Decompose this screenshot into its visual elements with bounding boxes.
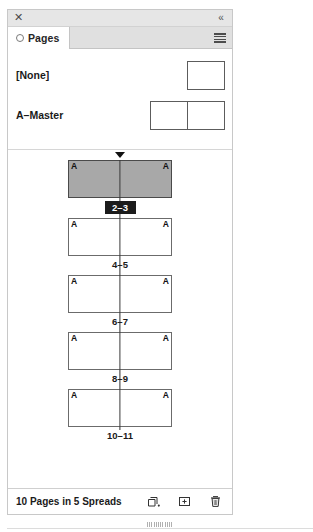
- masters-section: [None] A–Master: [8, 49, 232, 150]
- panel-titlebar: ✕ «: [8, 10, 232, 27]
- master-prefix-left: A: [71, 334, 77, 343]
- create-new-page-icon[interactable]: [177, 494, 191, 509]
- ring-icon: [16, 34, 24, 42]
- master-item-label: A–Master: [16, 109, 63, 121]
- spine-line: [119, 389, 120, 427]
- spine-line: [119, 332, 120, 370]
- panel-bottom-divider: [7, 528, 240, 529]
- master-prefix-left: A: [71, 277, 77, 286]
- spine-line: [119, 160, 120, 198]
- spine-line: [119, 218, 120, 256]
- tab-pages[interactable]: Pages: [8, 27, 70, 49]
- master-prefix-left: A: [71, 162, 77, 171]
- spread-label: 8–9: [8, 373, 232, 385]
- panel-tabstrip: Pages: [8, 27, 232, 49]
- panel-menu-icon[interactable]: [214, 33, 226, 43]
- panel-statusbar: 10 Pages in 5 Spreads: [8, 488, 232, 514]
- collapse-double-chevron-icon[interactable]: «: [214, 12, 227, 24]
- spine-line: [119, 275, 120, 313]
- master-prefix-right: A: [163, 391, 169, 400]
- statusbar-icon-group: [146, 494, 222, 509]
- pages-list[interactable]: A A 2–3 A A 4–5 A A 6–7: [8, 150, 232, 488]
- tab-pages-label: Pages: [28, 32, 59, 44]
- spread-label: 4–5: [8, 259, 232, 271]
- master-prefix-right: A: [163, 162, 169, 171]
- master-thumbnail[interactable]: [187, 61, 225, 90]
- master-item-none[interactable]: [None]: [8, 55, 232, 95]
- master-item-a-master[interactable]: A–Master: [8, 95, 232, 135]
- spread-label: 10–11: [8, 430, 232, 442]
- delete-selected-pages-icon[interactable]: [208, 494, 222, 509]
- master-page-thumb: [187, 61, 225, 90]
- master-prefix-right: A: [163, 220, 169, 229]
- spread-label: 6–7: [8, 316, 232, 328]
- spread-thumbnail[interactable]: A A: [68, 275, 172, 313]
- spread-thumbnail[interactable]: A A: [68, 218, 172, 256]
- master-thumbnail[interactable]: [150, 101, 225, 130]
- spread-thumbnail[interactable]: A A: [68, 332, 172, 370]
- spread-item[interactable]: A A 8–9: [8, 332, 232, 385]
- panel-resize-grip[interactable]: [147, 522, 173, 527]
- spread-item[interactable]: A A 4–5: [8, 218, 232, 271]
- master-prefix-right: A: [163, 277, 169, 286]
- spread-thumbnail[interactable]: A A: [68, 160, 172, 198]
- pages-panel: ✕ « Pages [None] A–Master: [7, 9, 233, 515]
- master-prefix-left: A: [71, 391, 77, 400]
- master-page-thumb: [150, 101, 188, 130]
- master-prefix-left: A: [71, 220, 77, 229]
- master-item-label: [None]: [16, 69, 49, 81]
- edit-page-size-icon[interactable]: [146, 494, 160, 509]
- close-icon[interactable]: ✕: [13, 12, 24, 23]
- spread-item[interactable]: A A 2–3: [8, 160, 232, 214]
- spread-label: 2–3: [105, 201, 136, 214]
- master-page-thumb: [187, 101, 225, 130]
- master-prefix-right: A: [163, 334, 169, 343]
- spread-thumbnail[interactable]: A A: [68, 389, 172, 427]
- spread-item[interactable]: A A 6–7: [8, 275, 232, 328]
- spread-item[interactable]: A A 10–11: [8, 389, 232, 442]
- current-spread-marker-icon: [115, 152, 125, 158]
- pages-summary-text: 10 Pages in 5 Spreads: [16, 496, 122, 507]
